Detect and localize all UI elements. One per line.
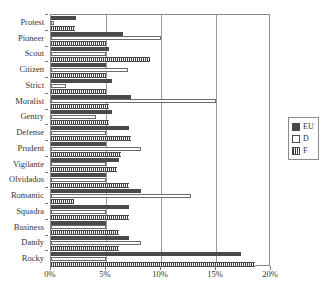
bar-d (51, 194, 191, 198)
bar-d (51, 36, 161, 40)
bar-d (51, 68, 128, 72)
y-axis-label: Strict (26, 80, 44, 90)
bar-eu (51, 79, 112, 83)
y-axis-label: Defense (16, 127, 44, 137)
y-axis-label: Rocky (22, 253, 44, 263)
bar-group (51, 15, 269, 31)
bar-eu (51, 32, 123, 36)
bar-eu (51, 173, 106, 177)
y-axis-label: Romantic (11, 190, 44, 200)
y-axis-tick (45, 109, 48, 110)
bar-d (51, 84, 66, 88)
bar-d (51, 99, 216, 103)
bar-eu (51, 63, 106, 67)
bar-eu (51, 189, 141, 193)
y-axis-label: Vigilante (13, 159, 44, 169)
bar-eu (51, 252, 241, 256)
bar-d (51, 115, 96, 119)
y-axis-tick (45, 61, 48, 62)
x-axis-tick-label: 20% (262, 269, 278, 279)
legend-swatch-eu (292, 123, 300, 131)
x-axis-tick-label: 15% (207, 269, 223, 279)
y-axis-tick (45, 187, 48, 188)
y-axis-tick (45, 124, 48, 125)
bar-group (51, 188, 269, 204)
y-axis-label: Squadra (16, 206, 44, 216)
y-axis-label: Scout (25, 48, 44, 58)
y-axis-tick (45, 93, 48, 94)
legend-swatch-f (292, 147, 300, 155)
bar-group (51, 236, 269, 252)
x-axis-tick (50, 266, 51, 270)
bar-d (51, 257, 106, 261)
y-axis-tick (45, 172, 48, 173)
legend-label: F (303, 147, 307, 155)
bar-d (51, 210, 106, 214)
plot-area (50, 14, 270, 266)
legend-item: EU (292, 121, 314, 132)
bar-d (51, 147, 141, 151)
bar-group (51, 47, 269, 63)
bar-group (51, 220, 269, 236)
y-axis-tick (45, 77, 48, 78)
bar-group (51, 125, 269, 141)
bar-eu (51, 221, 106, 225)
bar-group (51, 173, 269, 189)
y-axis-tick (45, 250, 48, 251)
y-axis-label: Moralist (15, 96, 44, 106)
y-axis-tick (45, 46, 48, 47)
bar-eu (51, 16, 76, 20)
bar-group (51, 204, 269, 220)
x-axis-labels: 0%5%10%15%20% (0, 269, 334, 285)
y-axis-label: Olvidados (9, 174, 44, 184)
chart-legend: EUDF (288, 117, 319, 160)
x-axis-tick-label: 5% (99, 269, 110, 279)
bar-group (51, 31, 269, 47)
y-axis-label: Prudent (18, 143, 44, 153)
y-axis-tick (45, 235, 48, 236)
bar-group (51, 141, 269, 157)
x-axis-tick (160, 266, 161, 270)
x-axis-tick (105, 266, 106, 270)
bar-eu (51, 158, 119, 162)
bar-eu (51, 236, 129, 240)
bar-d (51, 178, 106, 182)
y-axis-tick (45, 14, 48, 15)
y-axis-tick (45, 203, 48, 204)
y-axis-label: Pioneer (18, 33, 44, 43)
y-axis-labels: ProtestPioneerScoutCitizenStrictMoralist… (0, 14, 48, 266)
bar-group (51, 78, 269, 94)
bar-d (51, 131, 106, 135)
bar-d (51, 52, 106, 56)
y-axis-label: Gentry (20, 111, 44, 121)
bar-group (51, 251, 269, 267)
bar-eu (51, 142, 106, 146)
legend-label: D (303, 135, 309, 143)
bar-eu (51, 47, 109, 51)
y-axis-label: Protest (20, 17, 44, 27)
y-axis-label: Dandy (21, 237, 44, 247)
bar-d (51, 21, 54, 25)
y-axis-label: Citizen (19, 64, 44, 74)
y-axis-tick (45, 30, 48, 31)
bar-eu (51, 110, 112, 114)
bar-d (51, 225, 106, 229)
bar-group (51, 62, 269, 78)
bar-d (51, 162, 106, 166)
bar-eu (51, 205, 129, 209)
x-axis-tick-label: 10% (152, 269, 168, 279)
bar-chart: ProtestPioneerScoutCitizenStrictMoralist… (0, 0, 334, 299)
y-axis-tick (45, 140, 48, 141)
bar-group (51, 110, 269, 126)
legend-label: EU (303, 123, 314, 131)
bar-eu (51, 95, 131, 99)
y-axis-tick (45, 219, 48, 220)
x-axis-tick (215, 266, 216, 270)
legend-swatch-d (292, 135, 300, 143)
x-axis-tick-label: 0% (44, 269, 55, 279)
y-axis-tick (45, 156, 48, 157)
y-axis-label: Business (14, 222, 44, 232)
bar-group (51, 157, 269, 173)
bar-group (51, 94, 269, 110)
bar-d (51, 241, 141, 245)
